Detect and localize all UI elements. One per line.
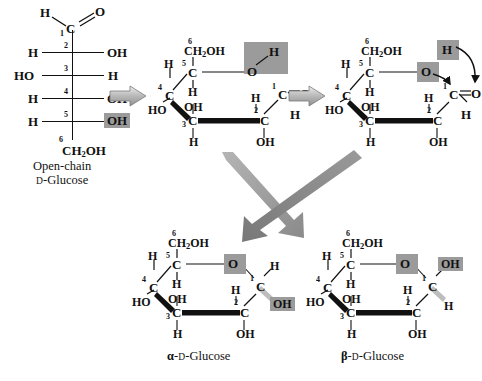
a-atom-c3: C bbox=[172, 306, 181, 319]
b-c2-h: H bbox=[403, 284, 412, 296]
a-c1-oh-highlight: OH bbox=[270, 297, 295, 311]
caption-beta-symbol: β bbox=[341, 349, 348, 363]
label-c5-number: 5 bbox=[64, 111, 68, 119]
b-atom-o-ring: O bbox=[400, 257, 410, 270]
a-atom-c4: C bbox=[149, 281, 158, 294]
a-c5-number: 5 bbox=[166, 252, 170, 260]
b-c1-oh-highlight: OH bbox=[438, 257, 463, 271]
bond-c4-horizontal bbox=[42, 98, 104, 99]
atom-c2-left-h: H bbox=[28, 46, 38, 59]
b-c3-h: H bbox=[347, 328, 356, 340]
structure-coiled-open-chain: 6 CH2OH 5 C H H 4 C HO OH 3 C bbox=[148, 22, 308, 152]
caption-glucose-suffix: -Glucose bbox=[43, 173, 88, 187]
b-c3-oh: OH bbox=[342, 293, 361, 305]
b-c4-ho: HO bbox=[306, 296, 325, 308]
b-c2-number: 2 bbox=[406, 299, 410, 307]
a-c2-h: H bbox=[231, 284, 240, 296]
atom-c3-left-ho: HO bbox=[14, 69, 34, 82]
b-atom-c1: C bbox=[428, 280, 437, 293]
bond-c3-horizontal bbox=[42, 75, 104, 76]
b-atom-c2: C bbox=[412, 306, 421, 319]
arrow-h-to-o bbox=[456, 47, 475, 82]
b-c5-h: H bbox=[346, 278, 355, 290]
b-c2-oh: OH bbox=[408, 328, 427, 340]
b-c5-number: 5 bbox=[340, 252, 344, 260]
c1-bonds bbox=[0, 0, 150, 60]
b-c1-h: H bbox=[444, 300, 453, 312]
figure-canvas: C 1 H O 2 H OH 3 HO H 4 H OH 5 H OH 6 CH… bbox=[0, 0, 482, 381]
a-atom-c1: C bbox=[256, 280, 265, 293]
b-atom-c3: C bbox=[346, 306, 355, 319]
bond-c2-horizontal bbox=[42, 52, 104, 53]
caption-alpha-d-glucose: α-D-Glucose bbox=[167, 350, 230, 363]
structure-beta-d-glucose: 6 CH2OH 5 C H H 4 C HO OH bbox=[310, 228, 475, 378]
b-atom-c5: C bbox=[346, 258, 355, 271]
atom-c2-right-oh: OH bbox=[107, 46, 127, 59]
atom-c4-left-h: H bbox=[28, 92, 38, 105]
a-c2-oh: OH bbox=[236, 328, 255, 340]
a-c1-h: H bbox=[270, 260, 279, 272]
arrow-step1 bbox=[108, 84, 152, 112]
a-c3-number: 3 bbox=[166, 313, 170, 321]
arrow-o-to-c1 bbox=[433, 74, 450, 84]
caption-alpha-rest: -Glucose bbox=[185, 349, 230, 363]
a-c5-h: H bbox=[172, 278, 181, 290]
caption-alpha-symbol: α bbox=[167, 349, 174, 363]
a-c4-ho: HO bbox=[132, 296, 151, 308]
b-atom-c4: C bbox=[323, 281, 332, 294]
label-c2-number: 2 bbox=[64, 42, 68, 50]
mechanism-arrows bbox=[325, 22, 482, 152]
bond-c5-horizontal bbox=[42, 121, 104, 122]
atom-c3-right-h: H bbox=[108, 69, 118, 82]
caption-beta-d-glucose: β-D-Glucose bbox=[341, 350, 404, 363]
structure-nucleophilic-attack: 6 CH2OH 5 C H H 4 C HO OH 3 C bbox=[325, 22, 482, 152]
a-c3-oh: OH bbox=[168, 293, 187, 305]
a-c4-h: H bbox=[148, 250, 157, 262]
label-c4-number: 4 bbox=[64, 88, 68, 96]
b-c3-number: 3 bbox=[340, 313, 344, 321]
caption-open-chain-line1: Open-chain bbox=[33, 160, 91, 173]
b-c1-number: 1 bbox=[422, 275, 426, 283]
a-c2-number: 2 bbox=[234, 299, 238, 307]
a-c3-h: H bbox=[173, 328, 182, 340]
label-c3-number: 3 bbox=[64, 65, 68, 73]
b-c4-number: 4 bbox=[316, 276, 320, 284]
a-c4-number: 4 bbox=[142, 276, 146, 284]
caption-open-chain-line2: D-Glucose bbox=[36, 174, 88, 187]
atom-c5-left-h: H bbox=[28, 115, 38, 128]
c6-ch: CH bbox=[62, 143, 82, 158]
a-atom-c2: C bbox=[240, 306, 249, 319]
a-atom-c5: C bbox=[172, 258, 181, 271]
a-c1-number: 1 bbox=[250, 275, 254, 283]
atom-c6-ch2oh: CH2OH bbox=[62, 144, 106, 159]
caption-d-prefix: D bbox=[36, 176, 43, 186]
b-c4-h: H bbox=[322, 250, 331, 262]
atom-c5-oh-highlight: OH bbox=[104, 113, 130, 128]
caption-beta-rest: -Glucose bbox=[359, 349, 404, 363]
structure-alpha-d-glucose: 6 CH2OH 5 C H H 4 C HO OH bbox=[140, 228, 300, 378]
a-atom-o-ring: O bbox=[228, 257, 238, 270]
caption-beta-d: D bbox=[352, 352, 359, 362]
c6-oh: OH bbox=[86, 143, 106, 158]
